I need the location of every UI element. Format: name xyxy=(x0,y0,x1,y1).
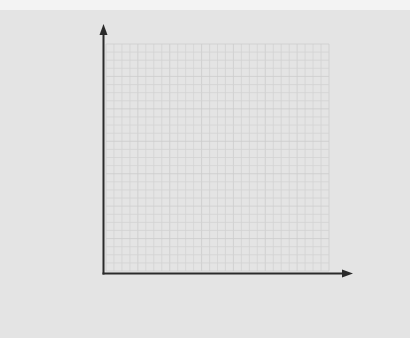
grid xyxy=(106,44,329,271)
coordinate-grid-diagram xyxy=(0,0,410,338)
y-axis-arrowhead-icon xyxy=(100,24,108,35)
x-axis-arrowhead-icon xyxy=(342,270,353,278)
